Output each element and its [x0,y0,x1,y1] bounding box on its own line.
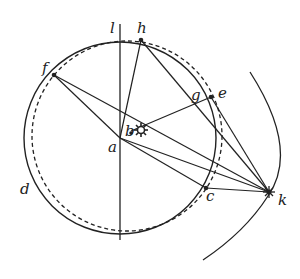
line-a-f [54,75,120,138]
label-l: l [110,19,115,37]
line-a-c [120,138,206,188]
point-h [139,38,144,43]
point-e [209,95,214,100]
sun-icon [134,123,148,137]
line-f-k [54,75,269,192]
diagram-canvas: l h f g e b a d c k [0,0,300,279]
label-d: d [20,180,30,198]
point-f [52,73,57,78]
line-e-k [211,97,269,192]
outer-arc [203,72,280,260]
label-a: a [108,138,117,156]
label-b: b [125,122,135,140]
label-c: c [206,187,215,205]
label-k: k [278,191,287,209]
label-h: h [137,19,147,37]
label-g: g [191,86,201,104]
label-e: e [218,84,227,102]
